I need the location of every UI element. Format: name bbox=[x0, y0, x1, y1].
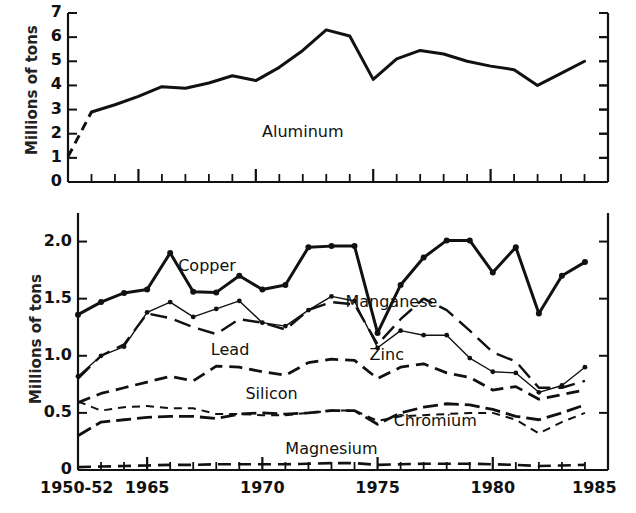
data-point-marker bbox=[398, 328, 403, 333]
y-tick-label: 1 bbox=[51, 147, 62, 166]
y-tick-label: 1.0 bbox=[44, 345, 72, 364]
series-copper bbox=[75, 237, 588, 336]
series-zinc bbox=[76, 294, 588, 395]
series-label-lead: Lead bbox=[211, 340, 249, 359]
series-line bbox=[78, 299, 585, 388]
data-point-marker bbox=[121, 290, 127, 296]
data-point-marker bbox=[305, 244, 311, 250]
series-label-zinc: Zinc bbox=[370, 345, 404, 364]
figure-root: Millions of tons Millions of tons 012345… bbox=[0, 0, 636, 513]
data-point-marker bbox=[168, 300, 173, 305]
data-point-marker bbox=[490, 269, 496, 275]
data-point-marker bbox=[398, 282, 404, 288]
data-point-marker bbox=[260, 320, 265, 325]
series-line bbox=[78, 359, 585, 402]
data-point-marker bbox=[283, 324, 288, 329]
data-point-marker bbox=[375, 330, 381, 336]
data-point-marker bbox=[236, 273, 242, 279]
data-point-marker bbox=[122, 344, 127, 349]
data-point-marker bbox=[259, 287, 265, 293]
data-point-marker bbox=[214, 307, 219, 312]
y-tick-label: 3 bbox=[51, 99, 62, 118]
series-chromium bbox=[78, 401, 585, 433]
series-label-magnesium: Magnesium bbox=[285, 439, 377, 458]
x-tick-label: 1985 bbox=[572, 478, 617, 497]
series-label-copper: Copper bbox=[178, 256, 236, 275]
x-tick-label: 1965 bbox=[125, 478, 170, 497]
y-tick-label: 2.0 bbox=[44, 231, 72, 250]
series-line bbox=[78, 401, 585, 433]
data-point-marker bbox=[282, 282, 288, 288]
series-label-silicon: Silicon bbox=[245, 384, 297, 403]
series-silicon bbox=[78, 404, 585, 436]
data-point-marker bbox=[237, 299, 242, 304]
data-point-marker bbox=[421, 333, 426, 338]
y-tick-label: 5 bbox=[51, 50, 62, 69]
y-tick-label: 0 bbox=[51, 171, 62, 190]
data-point-marker bbox=[76, 374, 81, 379]
series-segment bbox=[91, 30, 584, 112]
series-line bbox=[78, 296, 585, 392]
data-point-marker bbox=[582, 259, 588, 265]
data-point-marker bbox=[352, 243, 358, 249]
data-point-marker bbox=[191, 315, 196, 320]
series-line bbox=[78, 404, 585, 436]
data-point-marker bbox=[467, 356, 472, 361]
series-label-aluminum: Aluminum bbox=[262, 122, 343, 141]
series-lead bbox=[78, 359, 585, 402]
data-point-marker bbox=[490, 369, 495, 374]
data-point-marker bbox=[421, 255, 427, 261]
y-tick-label: 0 bbox=[61, 459, 72, 478]
y-tick-label: 2 bbox=[51, 123, 62, 142]
x-tick-label: 1980 bbox=[471, 478, 516, 497]
data-point-marker bbox=[144, 287, 150, 293]
data-point-marker bbox=[536, 311, 542, 317]
data-point-marker bbox=[513, 244, 519, 250]
series-manganese bbox=[78, 299, 585, 388]
data-point-marker bbox=[328, 243, 334, 249]
data-point-marker bbox=[329, 294, 334, 299]
y-tick-label: 6 bbox=[51, 26, 62, 45]
data-point-marker bbox=[583, 365, 588, 370]
data-point-marker bbox=[190, 289, 196, 295]
series-line bbox=[78, 240, 585, 333]
data-point-marker bbox=[444, 333, 449, 338]
data-point-marker bbox=[75, 312, 81, 318]
chart-canvas bbox=[0, 0, 636, 513]
x-tick-label: 1970 bbox=[240, 478, 285, 497]
data-point-marker bbox=[167, 250, 173, 256]
data-point-marker bbox=[145, 310, 150, 315]
data-point-marker bbox=[98, 299, 104, 305]
x-tick-label: 1975 bbox=[355, 478, 400, 497]
y-tick-label: 4 bbox=[51, 74, 62, 93]
data-point-marker bbox=[467, 237, 473, 243]
x-tick-label: 1950-52 bbox=[40, 478, 113, 497]
data-point-marker bbox=[306, 308, 311, 313]
data-point-marker bbox=[213, 289, 219, 295]
data-point-marker bbox=[99, 353, 104, 358]
data-point-marker bbox=[444, 237, 450, 243]
data-point-marker bbox=[560, 383, 565, 388]
series-label-chromium: Chromium bbox=[394, 411, 477, 430]
y-tick-label: 7 bbox=[51, 2, 62, 21]
data-point-marker bbox=[536, 390, 541, 395]
data-point-marker bbox=[559, 273, 565, 279]
data-point-marker bbox=[513, 371, 518, 376]
y-tick-label: 1.5 bbox=[44, 288, 72, 307]
series-label-manganese: Manganese bbox=[345, 292, 437, 311]
y-tick-label: 0.5 bbox=[44, 402, 72, 421]
